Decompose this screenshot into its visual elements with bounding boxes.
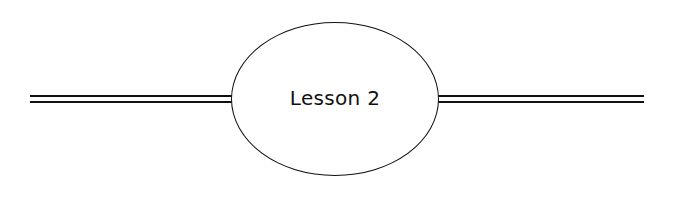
left-rule-bottom xyxy=(30,101,232,103)
title-oval: Lesson 2 xyxy=(231,22,439,176)
left-rule-top xyxy=(30,95,232,97)
right-rule-bottom xyxy=(438,101,644,103)
lesson-title: Lesson 2 xyxy=(290,86,380,110)
right-rule-top xyxy=(438,95,644,97)
